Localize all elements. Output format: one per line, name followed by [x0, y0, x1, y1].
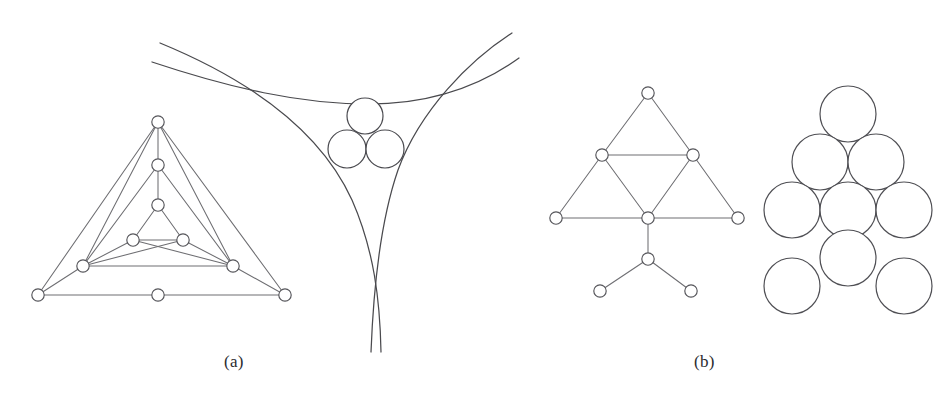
graph-edge	[233, 266, 285, 295]
packing-circle	[820, 86, 876, 142]
graph-edge	[158, 122, 233, 266]
graph-edge	[83, 165, 158, 266]
packing-circle	[792, 134, 848, 190]
apollonian-graph-group	[32, 116, 291, 301]
graph-edge	[158, 165, 233, 266]
caption-label-b: (b)	[694, 352, 715, 372]
graph-node	[687, 149, 699, 161]
circle-packing-group	[764, 86, 932, 314]
packing-circle	[820, 230, 876, 286]
graph-edge	[83, 122, 158, 266]
tangent-circle-top	[347, 98, 383, 134]
tangent-circle-right	[366, 130, 404, 168]
graph-edge	[556, 155, 602, 218]
graph-edge	[183, 240, 233, 266]
graph-node	[152, 159, 164, 171]
graph-node	[127, 234, 139, 246]
graph-node	[152, 116, 164, 128]
graph-edge	[38, 266, 83, 295]
tangent-circles-group	[328, 98, 404, 168]
caption-label-a: (a)	[224, 352, 244, 372]
graph-edge	[600, 259, 648, 291]
graph-node	[596, 149, 608, 161]
graph-edge	[38, 122, 158, 295]
figure-canvas	[0, 0, 933, 400]
graph-edge	[602, 155, 648, 218]
curvilinear-triangle-group	[152, 33, 519, 352]
tangent-circle-left	[328, 130, 366, 168]
graph-node	[550, 212, 562, 224]
graph-node	[77, 260, 89, 272]
packing-circle	[876, 258, 932, 314]
graph-edge	[648, 259, 691, 291]
graph-node	[642, 253, 654, 265]
graph-node	[685, 285, 697, 297]
graph-node	[32, 289, 44, 301]
graph-node	[227, 260, 239, 272]
sierpinski-graph-nodes	[550, 87, 744, 297]
figure-root: (a) (b)	[0, 0, 933, 400]
graph-node	[642, 212, 654, 224]
graph-edge	[158, 122, 285, 295]
graph-edge	[648, 155, 693, 218]
graph-node	[152, 199, 164, 211]
packing-circle	[764, 182, 820, 238]
curve-arc-left	[160, 43, 381, 352]
graph-edge	[602, 93, 648, 155]
curve-arc-right	[371, 33, 512, 352]
graph-node	[279, 289, 291, 301]
packing-circle	[848, 134, 904, 190]
graph-node	[642, 87, 654, 99]
graph-edge	[83, 240, 133, 266]
graph-edge	[648, 93, 693, 155]
graph-node	[177, 234, 189, 246]
sierpinski-graph-group	[550, 87, 744, 297]
packing-circle	[764, 258, 820, 314]
packing-circle	[876, 182, 932, 238]
graph-node	[594, 285, 606, 297]
graph-edge	[693, 155, 738, 218]
graph-node	[732, 212, 744, 224]
graph-node	[152, 289, 164, 301]
